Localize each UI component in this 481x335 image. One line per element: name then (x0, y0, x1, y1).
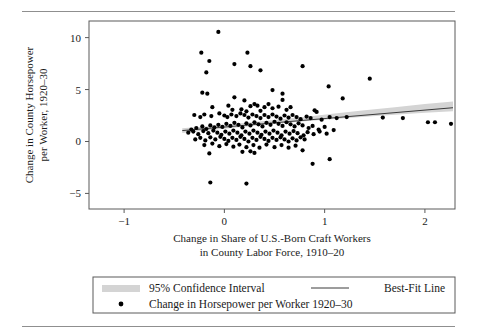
data-point (235, 131, 239, 135)
x-tick-label: 0 (222, 215, 228, 227)
data-point (227, 132, 231, 136)
data-point (204, 70, 208, 74)
data-point (239, 107, 243, 111)
data-point (244, 121, 248, 125)
data-point (237, 143, 241, 147)
data-point (293, 144, 297, 148)
data-point (290, 113, 294, 117)
data-point (246, 139, 250, 143)
data-point (240, 150, 244, 154)
data-point (252, 102, 256, 106)
data-point (230, 108, 234, 112)
data-point (276, 105, 280, 109)
data-point (286, 116, 290, 120)
data-point (274, 114, 278, 118)
data-point (226, 104, 230, 108)
data-point (255, 131, 259, 135)
data-point (280, 98, 284, 102)
data-point (186, 131, 190, 135)
data-point (401, 116, 405, 120)
data-point (224, 122, 228, 126)
data-point (231, 128, 235, 132)
data-point (244, 145, 248, 149)
data-point (232, 121, 236, 125)
data-point (258, 135, 262, 139)
data-point (222, 137, 226, 141)
y-axis-ticks: 1050−5 (69, 32, 89, 200)
data-point (332, 128, 336, 132)
data-point (345, 115, 349, 119)
data-point (284, 108, 288, 112)
data-point (327, 84, 331, 88)
data-point (254, 138, 258, 142)
data-point (257, 146, 261, 150)
data-point (270, 136, 274, 140)
data-point (232, 95, 236, 99)
y-tick-label: 10 (70, 32, 82, 44)
data-point (262, 113, 266, 117)
data-point (247, 132, 251, 136)
data-point (309, 116, 313, 120)
data-point (381, 116, 385, 120)
chart-legend: 95% Confidence Interval Best-Fit Line Ch… (93, 277, 455, 313)
data-point (208, 180, 212, 184)
data-point (208, 135, 212, 139)
y-axis-title-line1: Change in County Horsepower (23, 46, 35, 183)
data-point (248, 123, 252, 127)
y-tick-label: −5 (69, 187, 81, 199)
data-point (283, 130, 287, 134)
data-point (368, 77, 372, 81)
data-point (264, 143, 268, 147)
data-point (311, 124, 315, 128)
data-point (315, 110, 319, 114)
data-point (223, 130, 227, 134)
data-point (266, 102, 270, 106)
data-point (198, 136, 202, 140)
data-point (295, 131, 299, 135)
data-point (218, 135, 222, 139)
data-point (278, 135, 282, 139)
data-point (215, 131, 219, 135)
data-point (202, 143, 206, 147)
data-point (311, 162, 315, 166)
data-point (216, 123, 220, 127)
data-point (266, 115, 270, 119)
data-point (211, 128, 215, 132)
x-axis-ticks: −1012 (118, 209, 427, 227)
data-point (306, 130, 310, 134)
data-point (312, 132, 316, 136)
data-point (202, 112, 206, 116)
data-point (267, 132, 271, 136)
data-point (328, 157, 332, 161)
data-point (298, 135, 302, 139)
data-point (208, 123, 212, 127)
data-point (292, 124, 296, 128)
data-point (294, 138, 298, 142)
x-tick-label: 1 (322, 215, 328, 227)
data-point (282, 137, 286, 141)
data-point (280, 124, 284, 128)
data-point (225, 115, 229, 119)
legend-fit-label: Best-Fit Line (384, 282, 445, 294)
data-point (279, 143, 283, 147)
data-point (258, 116, 262, 120)
data-point (288, 122, 292, 126)
data-point (210, 141, 214, 145)
data-point (256, 122, 260, 126)
data-point (245, 51, 249, 55)
data-point (203, 138, 207, 142)
data-point (298, 117, 302, 121)
data-point (272, 145, 276, 149)
data-point (262, 137, 266, 141)
data-point (200, 91, 204, 95)
data-point (280, 92, 284, 96)
data-point (248, 64, 252, 68)
data-point (449, 122, 453, 126)
data-point (224, 142, 228, 146)
figure-container: −1012 1050−5 Change in Share of U.S.-Bor… (0, 0, 481, 335)
data-point (240, 125, 244, 129)
data-point (284, 120, 288, 124)
legend-points-label: Change in Horsepower per Worker 1920–30 (149, 298, 353, 311)
data-point (300, 148, 304, 152)
data-point (302, 137, 306, 141)
